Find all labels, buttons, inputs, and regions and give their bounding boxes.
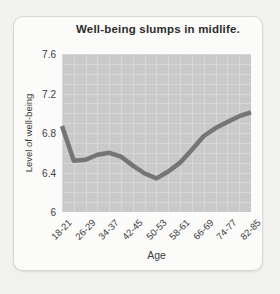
chart-title: Well-being slumps in midlife. bbox=[62, 23, 254, 35]
wellbeing-line bbox=[62, 112, 251, 178]
chart-figure: Well-being slumps in midlife. Level of w… bbox=[0, 0, 280, 294]
y-tick-label: 6.8 bbox=[12, 128, 56, 139]
y-tick-label: 7.6 bbox=[12, 49, 56, 60]
plot-area bbox=[62, 54, 251, 212]
y-tick-label: 7.2 bbox=[12, 88, 56, 99]
x-axis-title: Age bbox=[62, 249, 251, 261]
wellbeing-line-chart bbox=[62, 54, 251, 212]
y-tick-label: 6 bbox=[12, 207, 56, 218]
y-tick-label: 6.4 bbox=[12, 167, 56, 178]
